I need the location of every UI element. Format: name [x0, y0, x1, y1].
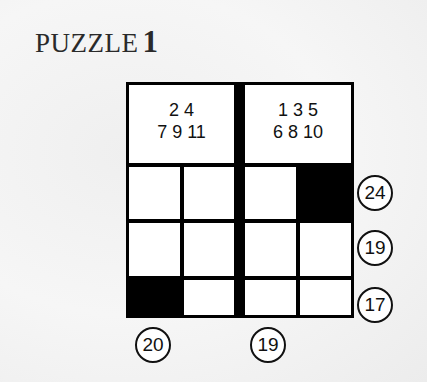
- cell-r1-c1[interactable]: [129, 167, 180, 219]
- puzzle-title: PUZZLE1: [35, 24, 159, 60]
- header-right: 1 3 5 6 8 10: [245, 85, 351, 163]
- header-right-line1: 1 3 5: [245, 99, 351, 121]
- row-clue-1: 24: [357, 175, 393, 211]
- title-text: PUZZLE: [35, 28, 139, 58]
- header-left-line1: 2 4: [129, 99, 234, 121]
- row-clue-2: 19: [357, 230, 393, 266]
- puzzle-grid: 2 4 7 9 11 1 3 5 6 8 10: [126, 82, 354, 318]
- row-clue-3: 17: [357, 287, 393, 323]
- cell-r1-c2[interactable]: [184, 167, 234, 219]
- cell-r3-c4[interactable]: [300, 280, 351, 315]
- header-right-line2: 6 8 10: [245, 121, 351, 143]
- cell-r2-c1[interactable]: [129, 223, 180, 276]
- cell-r2-c3[interactable]: [245, 223, 296, 276]
- column-clue-left: 20: [135, 327, 171, 363]
- header-left-line2: 7 9 11: [129, 121, 234, 143]
- cell-r2-c2[interactable]: [184, 223, 234, 276]
- header-left: 2 4 7 9 11: [129, 85, 234, 163]
- cell-r2-c4[interactable]: [300, 223, 351, 276]
- cell-r3-c2[interactable]: [184, 280, 234, 315]
- cell-r1-c4-black: [300, 167, 351, 219]
- cell-r3-c3[interactable]: [245, 280, 296, 315]
- cell-r1-c3[interactable]: [245, 167, 296, 219]
- title-number: 1: [143, 24, 159, 59]
- cell-r3-c1-black: [129, 280, 180, 315]
- column-clue-right: 19: [250, 327, 286, 363]
